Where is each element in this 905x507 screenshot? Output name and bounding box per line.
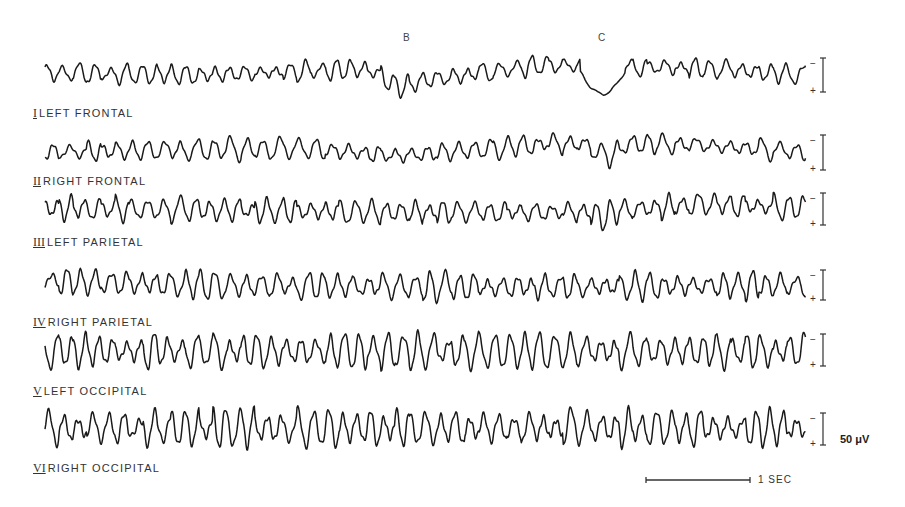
- polarity-plus-i: +: [810, 86, 816, 96]
- channel-numeral: IV: [33, 315, 46, 329]
- polarity-plus-v: +: [810, 360, 816, 370]
- eeg-trace-ii: [45, 133, 806, 169]
- channel-name: RIGHT PARIETAL: [48, 316, 153, 328]
- polarity-minus-ii: −: [810, 136, 816, 146]
- eeg-trace-i: [45, 55, 806, 98]
- polarity-minus-vi: −: [810, 414, 816, 424]
- time-scale-label: 1 SEC: [758, 474, 792, 485]
- channel-name: LEFT OCCIPITAL: [44, 385, 148, 397]
- event-marker-b: B: [403, 32, 410, 43]
- eeg-trace-vi: [45, 405, 806, 450]
- channel-name: LEFT PARIETAL: [47, 236, 144, 248]
- channel-name: RIGHT FRONTAL: [43, 175, 146, 187]
- polarity-minus-iv: −: [810, 271, 816, 281]
- channel-label-iii: IIILEFT PARIETAL: [33, 235, 144, 250]
- event-marker-c: C: [598, 32, 605, 43]
- channel-label-ii: IIRIGHT FRONTAL: [33, 174, 146, 189]
- calibration-bars: [820, 58, 826, 445]
- channel-numeral: I: [33, 106, 37, 120]
- eeg-figure: [0, 0, 905, 507]
- channel-label-i: ILEFT FRONTAL: [33, 106, 134, 121]
- channel-name: LEFT FRONTAL: [39, 107, 134, 119]
- channel-label-vi: VIRIGHT OCCIPITAL: [33, 461, 160, 476]
- polarity-minus-iii: −: [810, 194, 816, 204]
- channel-label-iv: IVRIGHT PARIETAL: [33, 315, 153, 330]
- channel-name: RIGHT OCCIPITAL: [48, 462, 160, 474]
- channel-numeral: III: [33, 235, 45, 249]
- polarity-plus-ii: +: [810, 164, 816, 174]
- eeg-traces: [45, 55, 806, 450]
- polarity-plus-iii: +: [810, 219, 816, 229]
- polarity-plus-iv: +: [810, 294, 816, 304]
- polarity-minus-i: −: [810, 59, 816, 69]
- polarity-minus-v: −: [810, 335, 816, 345]
- eeg-trace-iii: [45, 192, 806, 230]
- amplitude-scale-label: 50 μV: [840, 433, 869, 445]
- channel-numeral: VI: [33, 461, 46, 475]
- polarity-plus-vi: +: [810, 439, 816, 449]
- channel-numeral: V: [33, 384, 42, 398]
- eeg-trace-iv: [45, 268, 806, 303]
- eeg-trace-v: [45, 330, 806, 372]
- channel-numeral: II: [33, 174, 41, 188]
- channel-label-v: VLEFT OCCIPITAL: [33, 384, 147, 399]
